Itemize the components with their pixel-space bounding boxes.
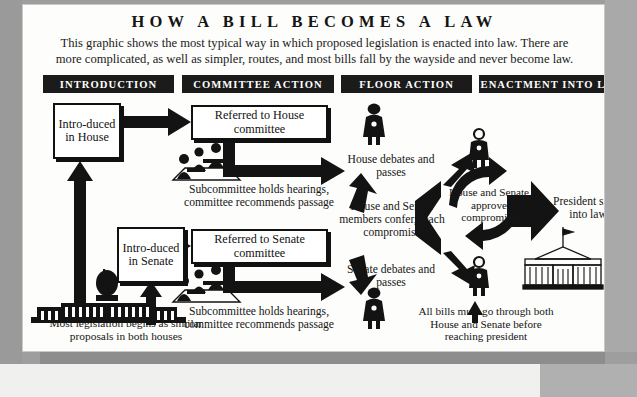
box-introduced-in-senate-label: Intro-duced in Senate (119, 242, 183, 269)
caption-house-debates: House debates and passes (339, 153, 443, 179)
legislator-figure-icon-conference-bottom (469, 257, 489, 296)
caption-approve-compromise: House and Senate approve compromise (447, 186, 531, 224)
page-surround-right (605, 0, 637, 352)
stage-bar-committee-action: COMMITTEE ACTION (182, 75, 334, 93)
infographic-root: HOW A BILL BECOMES A LAW This graphic sh… (0, 0, 637, 397)
box-introduced-in-senate: Intro-duced in Senate (117, 227, 185, 283)
arrow-senate-committee-to-floor (223, 264, 345, 301)
committee-table-house-outline (173, 168, 240, 180)
page-shadow-bottom (40, 350, 605, 364)
box-referred-to-senate-committee: Referred to Senate committee (191, 229, 328, 264)
page-title: HOW A BILL BECOMES A LAW (23, 12, 605, 32)
caption-members-confer: House and Senate members confer, reach c… (329, 200, 455, 240)
caption-senate-debates: Senate debates and passes (339, 263, 443, 289)
stage-bar-enactment-into-law: ENACTMENT INTO LAW (479, 75, 605, 93)
arrow-house-committee-to-floor (223, 140, 345, 185)
caption-subcommittee-house: Subcommittee holds hearings, committee r… (173, 183, 345, 209)
white-house-icon (523, 227, 603, 289)
cycle-arrow-left-upper (443, 153, 475, 187)
page-surround-left (0, 0, 22, 397)
box-introduced-in-house-label: Intro-duced in House (55, 118, 119, 145)
caption-all-bills-note: All bills must go through both House and… (411, 305, 561, 343)
caption-president-signs: President signs into law (549, 195, 605, 221)
page-surround-bottom-right (540, 364, 637, 397)
page-subtitle: This graphic shows the most typical way … (47, 36, 582, 67)
box-referred-to-house-committee-label: Referred to House committee (193, 109, 326, 136)
committee-group-icon-house (177, 143, 224, 179)
box-referred-to-house-committee: Referred to House committee (191, 105, 328, 140)
arrow-house-to-house-committee (124, 108, 191, 136)
stage-bar-floor-action: FLOOR ACTION (341, 75, 472, 93)
box-referred-to-senate-committee-label: Referred to Senate committee (193, 233, 326, 260)
committee-table-senate-outline (173, 290, 240, 302)
legislator-figure-icon-conference-top (469, 129, 489, 168)
arrow-capitol-to-house (67, 161, 93, 305)
infographic-page: HOW A BILL BECOMES A LAW This graphic sh… (22, 4, 605, 352)
caption-most-legislation: Most legislation begins as similar propo… (37, 317, 215, 343)
stage-bar-row: INTRODUCTION COMMITTEE ACTION FLOOR ACTI… (43, 75, 591, 93)
legislator-figure-icon-house-floor (363, 104, 385, 145)
box-introduced-in-house: Intro-duced in House (53, 103, 121, 159)
stage-bar-introduction: INTRODUCTION (43, 75, 174, 93)
cycle-arrow-left-lower (443, 251, 475, 285)
legislator-figure-icon-senate-floor (363, 288, 385, 329)
